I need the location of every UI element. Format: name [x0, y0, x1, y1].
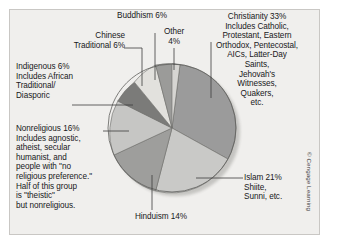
pie-chart-figure: Christianity 33% Includes Catholic, Prot… [0, 0, 340, 244]
slice-label-chinese-traditional: Chinese Traditional 6% [41, 31, 125, 50]
slice-label-nonreligious: Nonreligious 16% Includes agnostic, athe… [16, 124, 122, 210]
slice-label-buddhism: Buddhism 6% [104, 11, 180, 21]
slice-label-christianity: Christianity 33% Includes Catholic, Prot… [203, 12, 311, 108]
slice-label-other: Other 4% [156, 27, 192, 46]
slice-label-hinduism: Hinduism 14% [118, 212, 204, 222]
copyright-credit: © Cengage Learning [306, 152, 313, 218]
slice-label-indigenous: Indigenous 6% Includes African Tradition… [16, 62, 118, 100]
